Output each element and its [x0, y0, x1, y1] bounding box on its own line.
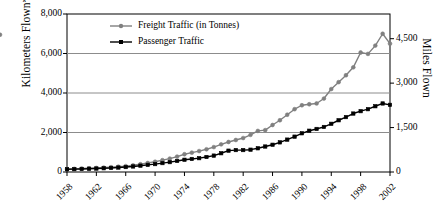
series-marker [175, 159, 178, 162]
series-marker [227, 140, 231, 144]
y-axis-right-tick-label: 0 [396, 166, 401, 176]
series-marker [65, 168, 68, 171]
series-marker [249, 148, 252, 151]
legend-swatch-marker [119, 24, 123, 28]
series-marker [381, 32, 385, 36]
legend-swatch-marker [119, 40, 123, 44]
series-marker [271, 143, 274, 146]
series-marker [219, 152, 222, 155]
series-marker [256, 129, 260, 133]
y-axis-left-tick-label: 8,000 [19, 8, 62, 18]
series-marker [308, 129, 311, 132]
series-marker [315, 127, 318, 130]
series-marker [0, 33, 2, 37]
series-marker [124, 165, 127, 168]
series-marker [146, 163, 149, 166]
y-axis-left-tick-label: 2,000 [19, 127, 62, 137]
series-marker [293, 107, 297, 111]
legend-label: Passenger Traffic [138, 36, 204, 46]
y-axis-right-title: Miles Flown [421, 8, 433, 128]
series-marker [344, 73, 348, 77]
series-marker [278, 118, 282, 122]
chart-container: Kilometers Flown* Miles Flown 02,0004,00… [0, 0, 447, 212]
y-axis-right-tick-label: 1,500 [396, 122, 417, 132]
series-marker [337, 119, 340, 122]
series-marker [352, 112, 355, 115]
series-marker [190, 151, 194, 155]
series-marker [264, 145, 267, 148]
series-marker [249, 133, 253, 137]
series-marker [234, 148, 237, 151]
series-marker [293, 135, 296, 138]
series-marker [168, 157, 172, 161]
series-marker [183, 158, 186, 161]
series-marker [315, 102, 319, 106]
series-marker [271, 123, 275, 127]
series-marker [219, 142, 223, 146]
series-marker [300, 103, 304, 107]
series-marker [307, 102, 311, 106]
series-marker [330, 122, 333, 125]
series-marker [131, 165, 134, 168]
series-marker [175, 155, 179, 159]
series-marker [117, 166, 120, 169]
series-marker [234, 138, 238, 142]
series-marker [205, 147, 209, 151]
series-marker [278, 141, 281, 144]
series-marker [95, 167, 98, 170]
series-marker [139, 164, 142, 167]
legend-label: Freight Traffic (in Tonnes) [138, 20, 239, 30]
series-marker [366, 52, 370, 56]
series-marker [241, 136, 245, 140]
y-axis-left-tick-label: 4,000 [19, 87, 62, 97]
series-marker [73, 167, 76, 170]
series-marker [359, 51, 363, 55]
series-marker [263, 128, 267, 132]
series-marker [256, 147, 259, 150]
series-marker [197, 156, 200, 159]
series-marker [197, 149, 201, 153]
series-marker [161, 161, 164, 164]
series-marker [337, 80, 341, 84]
series-marker [388, 42, 392, 46]
series-marker [109, 166, 112, 169]
series-marker [183, 152, 187, 156]
series-marker [388, 103, 391, 106]
series-marker [168, 160, 171, 163]
series-marker [80, 167, 83, 170]
series-marker [227, 149, 230, 152]
series-marker [212, 154, 215, 157]
series-marker [190, 157, 193, 160]
series-marker [373, 44, 377, 48]
y-axis-left-tick-label: 0 [19, 166, 62, 176]
y-axis-right-tick-label: 4,500 [396, 33, 417, 43]
y-axis-right-tick-label: 3,000 [396, 77, 417, 87]
y-axis-left-tick-label: 6,000 [19, 48, 62, 58]
series-marker [286, 138, 289, 141]
series-marker [241, 148, 244, 151]
series-marker [212, 145, 216, 149]
series-marker [344, 115, 347, 118]
series-marker [322, 97, 326, 101]
series-marker [300, 132, 303, 135]
series-marker [381, 102, 384, 105]
series-marker [351, 65, 355, 69]
series-marker [87, 167, 90, 170]
series-marker [153, 162, 156, 165]
series-marker [329, 87, 333, 91]
series-marker [102, 167, 105, 170]
series-marker [359, 109, 362, 112]
series-marker [366, 107, 369, 110]
series-marker [322, 125, 325, 128]
series-marker [374, 105, 377, 108]
series-marker [285, 113, 289, 117]
series-marker [205, 155, 208, 158]
